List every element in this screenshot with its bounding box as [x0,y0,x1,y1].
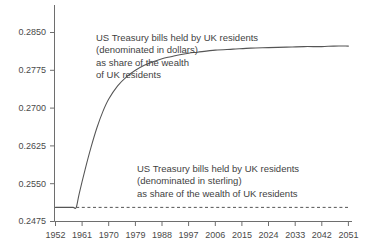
y-tick-label-5: 0.2475 [4,216,46,226]
annotation-dollars-line-3: as share of the wealth [96,57,258,69]
y-tick-label-1: 0.2775 [4,65,46,75]
chart-figure: 0.2850 0.2775 0.2700 0.2625 0.2550 0.247… [0,0,369,249]
annotation-sterling-line-1: US Treasury bills held by UK residents [137,163,299,175]
y-tick-label-2: 0.2700 [4,103,46,113]
annotation-dollars-line-1: US Treasury bills held by UK residents [96,32,258,44]
y-tick-label-4: 0.2550 [4,179,46,189]
y-tick-label-0: 0.2850 [4,27,46,37]
y-tick-label-3: 0.2625 [4,141,46,151]
x-tick-label-11: 2051 [331,230,365,240]
annotation-sterling: US Treasury bills held by UK residents (… [137,163,299,200]
annotation-sterling-line-2: (denominated in sterling) [137,175,299,187]
annotation-dollars-line-4: of UK residents [96,69,258,81]
annotation-sterling-line-3: as share of the wealth of UK residents [137,188,299,200]
annotation-dollars: US Treasury bills held by UK residents (… [96,32,258,82]
y-tick-marks [50,33,55,222]
x-tick-marks [56,222,349,227]
annotation-dollars-line-2: (denominated in dollars) [96,44,258,56]
